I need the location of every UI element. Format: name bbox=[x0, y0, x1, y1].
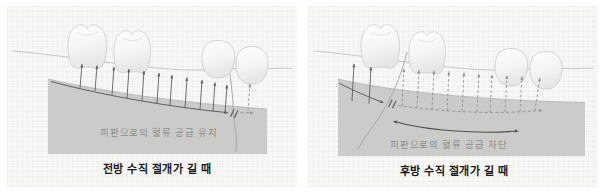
arrowhead bbox=[490, 74, 493, 78]
blood-supply-arrow bbox=[127, 69, 129, 98]
diagram-anterior-incision: 피판으로의 혈류 공급 유지 전방 수직 절개가 길 때 bbox=[7, 6, 297, 187]
premolar-tooth bbox=[202, 40, 235, 78]
flap-label: 피판으로의 혈류 공급 차단 bbox=[390, 139, 508, 150]
figure-dental-flap-diagram: 피판으로의 혈류 공급 유지 전방 수직 절개가 길 때 bbox=[0, 0, 605, 194]
arrowhead bbox=[185, 77, 188, 81]
arrowhead bbox=[213, 82, 216, 86]
molar-tooth bbox=[361, 25, 400, 68]
canine-tooth bbox=[530, 51, 562, 89]
blood-supply-arrow bbox=[95, 66, 97, 92]
arrowhead bbox=[200, 80, 203, 84]
blood-supply-arrow-cut bbox=[248, 84, 250, 111]
arrowhead bbox=[447, 71, 450, 75]
panel-posterior-incision: 피판으로의 혈류 공급 차단 후방 수직 절개가 길 때 bbox=[308, 6, 598, 187]
flap-label: 피판으로의 혈류 공급 유지 bbox=[100, 127, 218, 138]
diagram-posterior-incision: 피판으로의 혈류 공급 차단 후방 수직 절개가 길 때 bbox=[308, 6, 598, 187]
teeth bbox=[68, 25, 268, 84]
arrowhead bbox=[225, 85, 228, 89]
arrowhead bbox=[402, 68, 405, 72]
molar-tooth bbox=[68, 25, 107, 68]
panel-caption: 전방 수직 절개가 길 때 bbox=[103, 162, 212, 175]
canine-tooth bbox=[236, 46, 268, 84]
arrowhead bbox=[170, 75, 173, 79]
blood-supply-arrow bbox=[112, 67, 114, 95]
molar-tooth bbox=[114, 31, 151, 73]
panel-caption: 후방 수직 절개가 길 때 bbox=[400, 164, 509, 177]
molar-tooth bbox=[409, 32, 446, 74]
arrowhead bbox=[112, 67, 115, 71]
premolar-tooth bbox=[495, 48, 528, 86]
panel-anterior-incision: 피판으로의 혈류 공급 유지 전방 수직 절개가 길 때 bbox=[7, 6, 297, 187]
arrowhead bbox=[462, 72, 465, 76]
arrowhead bbox=[157, 73, 160, 77]
arrowhead bbox=[352, 64, 355, 68]
teeth bbox=[361, 25, 562, 89]
arrowhead bbox=[477, 73, 480, 77]
